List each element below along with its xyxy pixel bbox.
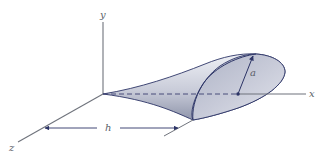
x-axis-label: x xyxy=(309,88,315,99)
z-axis-label: z xyxy=(8,142,15,153)
z-axis xyxy=(18,94,103,142)
diagram-canvas: y z x a h xyxy=(0,0,322,154)
y-axis-label: y xyxy=(99,9,106,20)
h-dimension-label: h xyxy=(105,122,111,133)
radius-label: a xyxy=(250,67,256,78)
